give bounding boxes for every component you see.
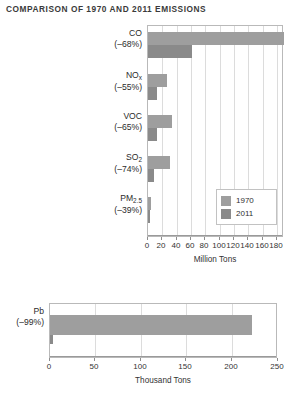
x-tick-label: 150 xyxy=(178,362,191,371)
x-tick-label: 0 xyxy=(145,241,149,250)
legend-swatch-2011 xyxy=(221,209,231,219)
x-tick-label: 140 xyxy=(240,241,253,250)
x-tick xyxy=(161,237,162,240)
bar-2011-voc xyxy=(148,128,157,141)
x-tick-label: 40 xyxy=(172,241,181,250)
category-label-so2: SO2 (–74%) xyxy=(50,152,142,174)
category-name-pm25: PM2.5 xyxy=(120,193,142,203)
bar-2011-nox xyxy=(148,87,157,100)
bar-2011-co xyxy=(148,45,192,58)
category-change-pb: (–99%) xyxy=(0,317,44,328)
x-tick-label: 50 xyxy=(90,362,99,371)
x-tick xyxy=(147,237,148,240)
page-title: COMPARISON OF 1970 AND 2011 EMISSIONS xyxy=(6,4,206,14)
category-change-co: (–68%) xyxy=(50,39,142,50)
category-name-nox: NOx xyxy=(126,70,142,80)
legend-item-1970: 1970 xyxy=(221,194,271,207)
legend-item-2011: 2011 xyxy=(221,207,271,220)
x-tick xyxy=(276,237,277,240)
category-change-so2: (–74%) xyxy=(50,164,142,175)
bar-1970-so2 xyxy=(148,156,170,169)
x-tick-label: 250 xyxy=(270,362,283,371)
category-label-co: CO (–68%) xyxy=(50,28,142,49)
x-tick xyxy=(185,358,186,361)
legend: 1970 2011 xyxy=(216,189,277,225)
category-label-pb: Pb (–99%) xyxy=(0,306,44,327)
emissions-chart-plot-area: 1970 2011 xyxy=(147,25,283,237)
gridline xyxy=(205,26,206,236)
x-tick xyxy=(190,237,191,240)
category-label-pm25: PM2.5 (–39%) xyxy=(45,193,142,215)
x-tick xyxy=(231,358,232,361)
x-tick xyxy=(233,237,234,240)
legend-label-1970: 1970 xyxy=(236,196,254,205)
x-axis-title-top: Million Tons xyxy=(147,255,283,264)
lead-chart-plot-area xyxy=(49,303,277,358)
x-tick xyxy=(277,358,278,361)
legend-label-2011: 2011 xyxy=(236,209,253,218)
category-change-pm25: (–39%) xyxy=(45,205,142,216)
x-tick-label: 160 xyxy=(255,241,268,250)
category-change-nox: (–55%) xyxy=(50,82,142,93)
legend-swatch-1970 xyxy=(221,196,231,206)
x-tick xyxy=(262,237,263,240)
x-tick xyxy=(140,358,141,361)
category-label-nox: NOx (–55%) xyxy=(50,70,142,92)
x-tick xyxy=(49,358,50,361)
x-tick xyxy=(219,237,220,240)
x-tick-label: 120 xyxy=(226,241,239,250)
x-tick xyxy=(247,237,248,240)
category-name-voc: VOC xyxy=(123,111,142,121)
bar-1970-co xyxy=(148,32,284,45)
bar-2011-pb xyxy=(50,335,53,344)
x-tick-label: 100 xyxy=(212,241,225,250)
gridline xyxy=(277,26,278,236)
bar-2011-pm25 xyxy=(148,210,150,223)
x-tick-label: 60 xyxy=(186,241,195,250)
category-label-voc: VOC (–65%) xyxy=(50,111,142,132)
bar-1970-pb xyxy=(50,315,252,335)
x-tick-label: 20 xyxy=(157,241,166,250)
category-name-so2: SO2 xyxy=(126,152,142,162)
x-tick-label: 100 xyxy=(133,362,146,371)
category-change-voc: (–65%) xyxy=(50,122,142,133)
x-axis-title-bottom: Thousand Tons xyxy=(49,376,277,385)
x-tick-label: 180 xyxy=(269,241,282,250)
x-tick xyxy=(94,358,95,361)
x-tick-label: 0 xyxy=(47,362,51,371)
x-axis-line xyxy=(50,356,276,357)
category-name-co: CO xyxy=(129,28,142,38)
x-axis-line xyxy=(148,235,282,236)
bar-1970-voc xyxy=(148,115,172,128)
bar-1970-pm25 xyxy=(148,197,151,210)
bar-2011-so2 xyxy=(148,169,154,182)
x-tick-label: 80 xyxy=(200,241,209,250)
x-tick xyxy=(176,237,177,240)
x-tick xyxy=(204,237,205,240)
category-name-pb: Pb xyxy=(33,306,44,316)
x-tick-label: 200 xyxy=(224,362,237,371)
bar-1970-nox xyxy=(148,74,167,87)
